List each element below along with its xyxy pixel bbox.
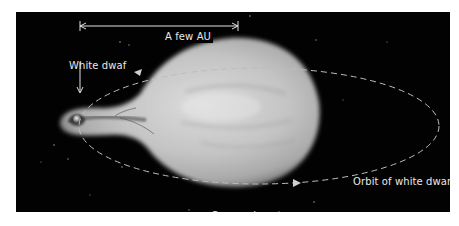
space-background: A few AU White dwaf Orbit of white dwarf… [16, 12, 450, 212]
scale-bar [80, 21, 238, 31]
white-dwarf-body [69, 114, 85, 126]
scale-bar-label: A few AU [163, 31, 213, 43]
diagram-canvas: A few AU White dwaf Orbit of white dwarf… [0, 0, 459, 226]
white-dwarf-label: White dwaf [69, 60, 126, 72]
orbit-label: Orbit of white dwarf [353, 176, 450, 188]
companion-star-label: Companion star [211, 210, 292, 212]
